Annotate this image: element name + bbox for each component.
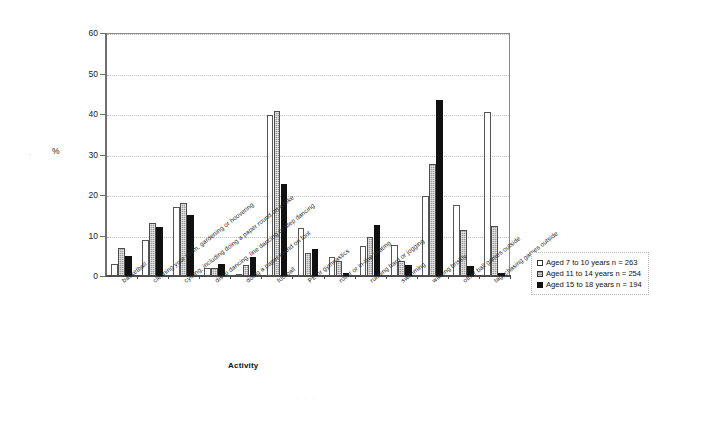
bar	[329, 257, 336, 276]
bar	[173, 207, 180, 276]
bar	[298, 228, 305, 276]
bar-group	[267, 33, 288, 276]
bar-group	[173, 33, 194, 276]
bar	[491, 226, 498, 276]
y-tick-label: 60	[56, 29, 98, 38]
bar	[343, 273, 350, 276]
bar	[460, 230, 467, 276]
bar	[336, 261, 343, 276]
bar	[125, 256, 132, 276]
bar	[436, 100, 443, 276]
bar	[398, 261, 405, 276]
bar	[274, 111, 281, 276]
bar	[111, 264, 118, 276]
bar-group	[360, 33, 381, 276]
bar-group	[329, 33, 350, 276]
bar	[453, 205, 460, 276]
bar-group	[453, 33, 474, 276]
bar	[267, 115, 274, 276]
bar	[281, 184, 288, 276]
bar-group	[142, 33, 163, 276]
legend-swatch-icon	[537, 282, 543, 288]
legend-label: Aged 15 to 18 years n = 194	[546, 279, 642, 290]
bar	[204, 268, 211, 276]
legend-swatch-icon	[537, 260, 543, 266]
legend-item: Aged 7 to 10 years n = 263	[537, 257, 642, 268]
bar	[391, 245, 398, 276]
bar	[180, 203, 187, 276]
bar	[429, 164, 436, 276]
bar	[211, 268, 218, 276]
bar-group	[204, 33, 225, 276]
y-tick-label: 10	[56, 232, 98, 241]
y-tick-label: 20	[56, 191, 98, 200]
bar	[374, 225, 381, 276]
bar-group	[298, 33, 319, 276]
bar	[312, 249, 319, 276]
x-tick-mark	[510, 275, 511, 279]
y-tick-label: 30	[56, 151, 98, 160]
bar	[243, 265, 250, 276]
bar	[218, 264, 225, 276]
x-axis-title: Activity	[228, 361, 259, 370]
bar	[484, 112, 491, 276]
bar	[149, 223, 156, 276]
bar	[360, 246, 367, 276]
bar	[467, 266, 474, 276]
bar	[118, 248, 125, 276]
bar-group	[391, 33, 412, 276]
legend-label: Aged 7 to 10 years n = 263	[546, 257, 637, 268]
bar	[305, 253, 312, 276]
y-tick-mark	[100, 276, 106, 277]
legend-swatch-icon	[537, 271, 543, 277]
bar	[405, 265, 412, 276]
bar-group	[111, 33, 132, 276]
legend: Aged 7 to 10 years n = 263 Aged 11 to 14…	[531, 252, 649, 295]
scan-artifact-left: ·	[29, 151, 31, 157]
y-tick-label: 50	[56, 70, 98, 79]
y-tick-label: 0	[56, 272, 98, 281]
legend-label: Aged 11 to 14 years n = 254	[546, 268, 641, 279]
bar	[156, 227, 163, 276]
legend-item: Aged 11 to 14 years n = 254	[537, 268, 642, 279]
scan-artifact-bottom: · · ·	[297, 396, 316, 402]
y-tick-label: 40	[56, 110, 98, 119]
bar	[250, 257, 257, 276]
bar-group	[484, 33, 505, 276]
bar	[236, 274, 243, 276]
bar	[422, 196, 429, 276]
legend-item: Aged 15 to 18 years n = 194	[537, 279, 642, 290]
bar-group	[422, 33, 443, 276]
bar	[498, 273, 505, 276]
bar-series-container	[106, 33, 510, 276]
bar	[367, 237, 374, 276]
chart-canvas: % 0102030405060 basketballcleaning your …	[0, 0, 708, 424]
bar-group	[236, 33, 257, 276]
bar	[142, 240, 149, 276]
bar	[187, 215, 194, 276]
